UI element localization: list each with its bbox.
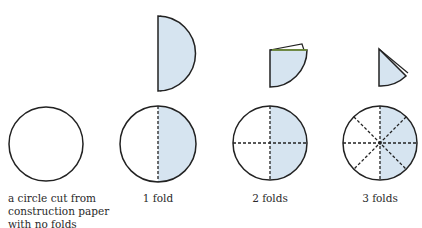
label-one-fold: 1 fold	[143, 192, 173, 205]
label-no-folds: a circle cut from construction paper wit…	[8, 192, 109, 228]
circle-one-fold	[120, 106, 196, 182]
circle-two-folds	[233, 106, 307, 180]
label-line: construction paper	[8, 205, 109, 218]
folded-half-circle	[158, 16, 196, 91]
label-line: a circle cut from	[8, 192, 109, 205]
label-line: with no folds	[8, 218, 109, 228]
folded-eighth-circle	[379, 49, 408, 86]
circle-three-folds	[343, 106, 417, 180]
label-three-folds: 3 folds	[362, 192, 398, 205]
folded-quarter-circle	[270, 44, 307, 87]
label-two-folds: 2 folds	[252, 192, 288, 205]
circle-no-folds	[9, 107, 83, 181]
